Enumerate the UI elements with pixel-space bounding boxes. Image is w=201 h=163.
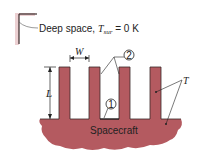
length-label: L xyxy=(45,87,52,99)
width-label: W xyxy=(75,46,85,57)
spacecraft-label: Spacecraft xyxy=(90,125,138,136)
marker-1-label: 1 xyxy=(108,99,114,110)
deep-space-corner xyxy=(15,13,38,45)
marker-2-label: 2 xyxy=(126,50,132,61)
environment-label: Deep space, Tsur = 0 K xyxy=(39,23,139,36)
temperature-label: T xyxy=(183,75,190,86)
fin-array-diagram: Deep space, Tsur = 0 K Spacecraft L W xyxy=(0,0,201,163)
leader-line xyxy=(19,22,38,28)
